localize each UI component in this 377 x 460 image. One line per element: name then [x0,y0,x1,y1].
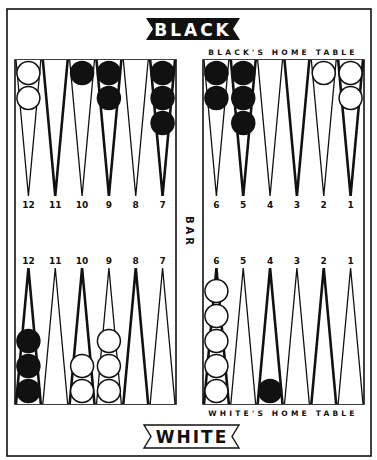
point-label: 10 [76,256,89,266]
white-checker [71,355,94,378]
white-banner: WHITE [144,425,239,448]
black-checker [259,380,282,403]
white-checker [205,305,228,328]
black-checker [232,62,255,85]
point-label: 8 [133,256,139,266]
black-checker [97,87,120,110]
point-label: 3 [294,200,300,210]
white-checker [205,380,228,403]
black-checker [151,112,174,135]
point-label: 4 [267,200,273,210]
point-top-left-8 [123,60,148,196]
point-bottom-right-1 [338,268,363,404]
black-home-table-label: BLACK'S HOME TABLE [208,48,357,57]
white-checker [205,330,228,353]
point-label: 3 [294,256,300,266]
point-label: 9 [106,200,112,210]
point-label: 9 [106,256,112,266]
point-top-left-11 [43,60,68,196]
point-label: 11 [49,200,62,210]
black-banner-text: BLACK [154,20,232,40]
black-checker [97,62,120,85]
point-label: 1 [347,256,353,266]
black-checker [205,62,228,85]
black-checker [17,330,40,353]
black-checker [151,87,174,110]
black-checker [17,355,40,378]
point-bottom-right-2 [311,268,336,404]
white-checker [97,330,120,353]
black-checker [151,62,174,85]
white-checker [205,355,228,378]
point-bottom-left-8 [123,268,148,404]
white-checker [71,380,94,403]
point-label: 10 [76,200,89,210]
point-label: 11 [49,256,62,266]
point-label: 5 [240,200,246,210]
point-bottom-left-7 [150,268,175,404]
point-label: 6 [213,256,219,266]
point-bottom-right-5 [231,268,256,404]
point-label: 7 [159,200,165,210]
black-checker [17,380,40,403]
point-label: 12 [22,256,35,266]
point-label: 2 [321,200,327,210]
point-label: 2 [321,256,327,266]
point-label: 4 [267,256,273,266]
point-top-right-4 [258,60,283,196]
point-label: 1 [347,200,353,210]
white-checker [339,62,362,85]
white-checker [97,380,120,403]
point-label: 5 [240,256,246,266]
point-bottom-right-3 [285,268,310,404]
point-bottom-left-11 [43,268,68,404]
backgammon-diagram: BLACK BLACK'S HOME TABLE BAR WHITE'S HOM… [0,0,377,460]
black-checker [232,87,255,110]
point-label: 7 [159,256,165,266]
white-checker [312,62,335,85]
white-checker [205,280,228,303]
black-checker [232,112,255,135]
white-checker [339,87,362,110]
black-checker [71,62,94,85]
point-label: 6 [213,200,219,210]
right-board [203,60,364,404]
bar-label: BAR [184,216,195,248]
left-board [15,60,176,404]
board-svg: BLACK BLACK'S HOME TABLE BAR WHITE'S HOM… [0,0,377,460]
white-checker [17,87,40,110]
black-checker [205,87,228,110]
white-checker [17,62,40,85]
point-label: 8 [133,200,139,210]
point-label: 12 [22,200,35,210]
white-banner-text: WHITE [156,427,229,447]
white-checker [97,355,120,378]
white-home-table-label: WHITE'S HOME TABLE [208,409,357,418]
black-banner: BLACK [146,18,240,40]
point-top-right-3 [285,60,310,196]
